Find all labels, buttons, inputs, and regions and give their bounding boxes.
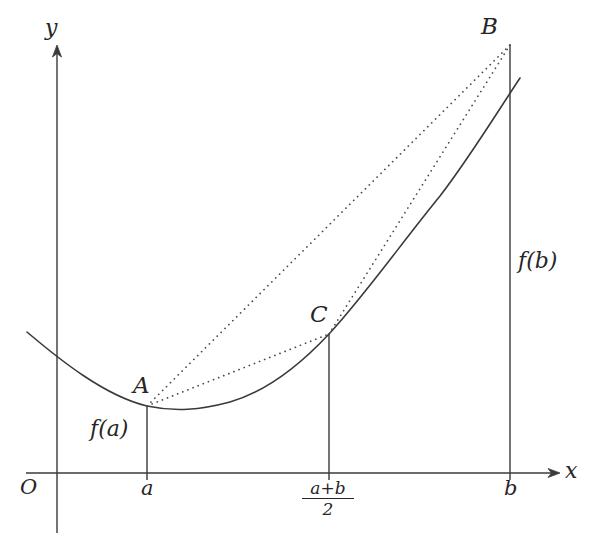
origin-label: O [20, 477, 37, 498]
midpoint-denominator: 2 [302, 499, 354, 518]
value-label-f-b: f(b) [518, 250, 557, 272]
point-label-c: C [310, 303, 328, 326]
x-axis-label: x [565, 460, 577, 482]
value-label-f-a: f(a) [90, 418, 128, 440]
tick-label-a: a [141, 478, 154, 499]
figure-canvas: y x O a b a+b 2 A C B f(a) f(b) [0, 0, 598, 533]
y-axis-label: y [45, 17, 57, 39]
convex-curve [27, 78, 520, 409]
y-axis [53, 45, 62, 533]
point-label-b: B [481, 15, 498, 38]
dotted-chord-ac [147, 334, 329, 406]
convexity-diagram [0, 0, 598, 533]
dotted-chord-cb [329, 45, 510, 334]
midpoint-numerator: a+b [302, 480, 354, 498]
x-axis [26, 469, 560, 478]
point-label-a: A [133, 374, 150, 397]
tick-label-b: b [504, 478, 517, 499]
tick-label-midpoint: a+b 2 [302, 480, 354, 518]
